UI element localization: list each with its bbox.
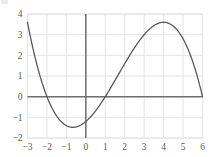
- x-tick-label: 2: [122, 142, 127, 152]
- y-tick-label: 1: [18, 71, 23, 81]
- x-tick-label: 4: [161, 142, 166, 152]
- x-tick-label: 5: [181, 142, 186, 152]
- x-tick-label: 6: [200, 142, 205, 152]
- chart-container: −3−2−10123456 −2−101234: [0, 0, 213, 157]
- x-tick-label: −1: [61, 142, 71, 152]
- x-tick-label: −3: [22, 142, 32, 152]
- corner-artifact-mark: [1, 0, 8, 4]
- y-tick-label: 3: [18, 30, 23, 40]
- x-tick-label: 3: [142, 142, 147, 152]
- y-tick-label: −1: [12, 113, 22, 123]
- x-tick-label: 0: [83, 142, 88, 152]
- y-tick-label: 2: [18, 51, 23, 61]
- y-tick-label: −2: [12, 133, 22, 143]
- cubic-function-plot: −3−2−10123456 −2−101234: [0, 0, 213, 157]
- y-tick-label: 0: [18, 92, 23, 102]
- plot-background: [0, 0, 213, 157]
- x-tick-label: 1: [103, 142, 108, 152]
- x-tick-label: −2: [42, 142, 52, 152]
- y-tick-label: 4: [18, 9, 23, 19]
